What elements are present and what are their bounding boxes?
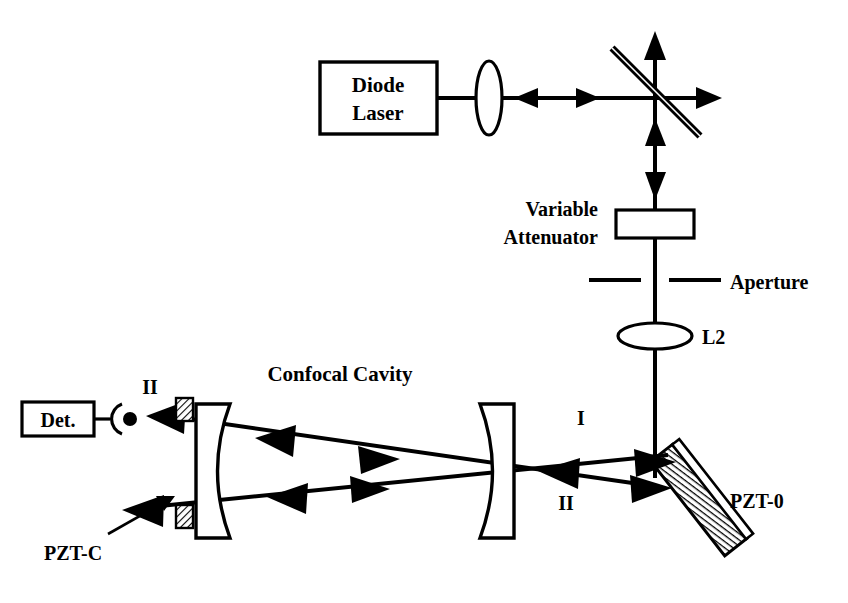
pzt-c-block-bottom <box>176 505 193 528</box>
detector-label: Det. <box>41 409 76 431</box>
beam-label-ii-left: II <box>142 376 158 398</box>
variable-attenuator-plate <box>616 210 694 238</box>
pzt-c-block-top <box>176 398 193 421</box>
lens-l2-assembly: L2 <box>618 323 725 349</box>
diode-laser-assembly: Diode Laser <box>320 62 437 134</box>
lens-l2-icon <box>618 323 692 349</box>
detector-active-dot <box>123 412 137 426</box>
diode-laser-label-line2: Laser <box>352 101 403 125</box>
optical-diagram-figure: Diode Laser <box>0 0 848 603</box>
lens-l2-label: L2 <box>702 326 725 348</box>
aperture-label: Aperture <box>730 271 809 294</box>
pzt-0-label: PZT-0 <box>730 490 784 512</box>
variable-attenuator-label-line2: Attenuator <box>504 226 599 248</box>
lens-l1-icon <box>476 61 502 135</box>
pzt-c-label: PZT-C <box>44 542 102 564</box>
variable-attenuator-label-line1: Variable <box>525 198 598 220</box>
beam-label-ii-right: II <box>558 492 574 514</box>
diode-laser-label-line1: Diode <box>352 73 405 97</box>
confocal-cavity-label: Confocal Cavity <box>267 362 413 386</box>
beam-label-i: I <box>577 407 585 429</box>
optical-setup-svg: Diode Laser <box>0 0 848 603</box>
